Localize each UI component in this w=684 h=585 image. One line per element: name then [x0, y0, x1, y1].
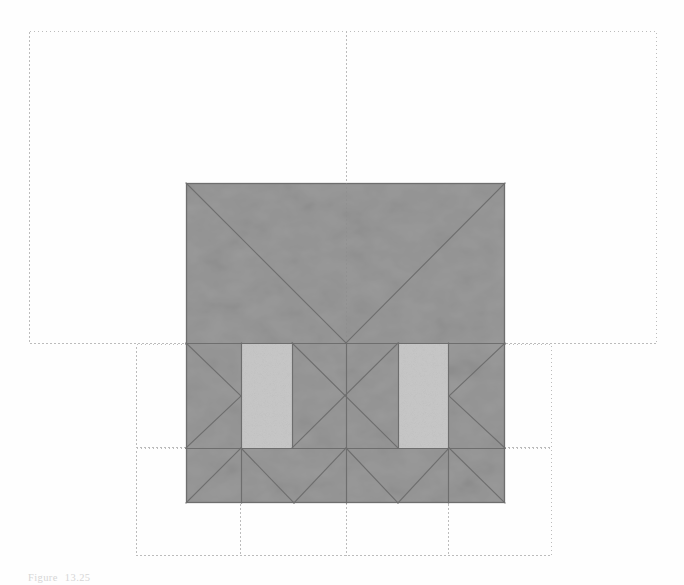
right-dormer-face [398, 343, 449, 448]
roof-mass [186, 183, 505, 503]
figure-caption-label: Figure [28, 572, 58, 583]
left-dormer-face [241, 343, 292, 448]
figure-caption-number: 13.25 [65, 572, 91, 583]
figure-canvas: Figure13.25 [0, 0, 684, 585]
roof-plan-drawing [0, 0, 684, 585]
figure-caption: Figure13.25 [28, 572, 90, 584]
